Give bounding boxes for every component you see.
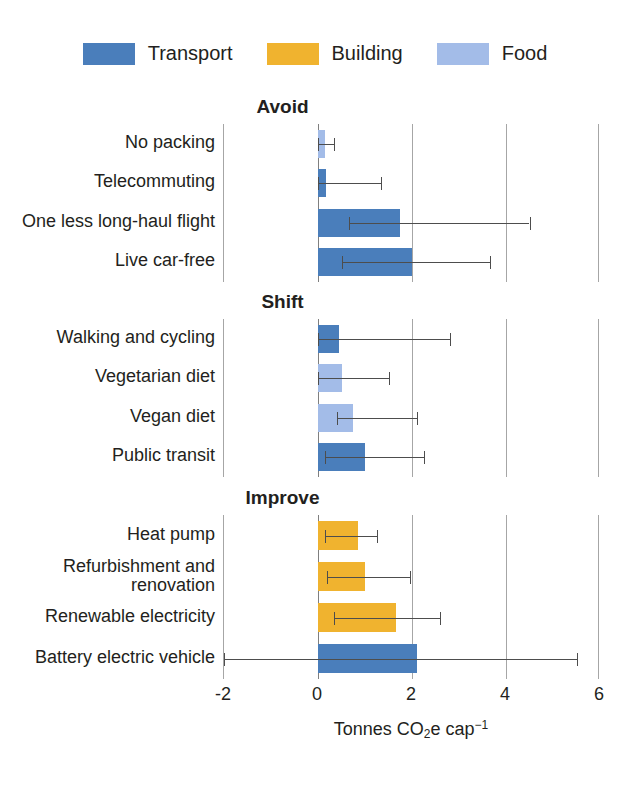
chart-row: Renewable electricity	[224, 597, 598, 638]
panel-title-avoid: Avoid	[0, 96, 565, 118]
chart-legend: Transport Building Food	[0, 42, 630, 65]
error-cap-low	[349, 217, 350, 230]
category-label: No packing	[125, 133, 215, 152]
error-bar	[318, 339, 450, 340]
chart-row: Vegan diet	[224, 398, 598, 438]
error-bar	[334, 618, 440, 619]
error-cap-high	[410, 571, 411, 584]
category-label: Walking and cycling	[57, 328, 215, 347]
error-cap-high	[389, 372, 390, 385]
error-cap-low	[224, 653, 225, 666]
error-cap-high	[577, 653, 578, 666]
error-cap-high	[334, 138, 335, 151]
error-bar	[337, 418, 417, 419]
error-bar	[349, 223, 530, 224]
chart-row: Telecommuting	[224, 164, 598, 204]
error-cap-low	[325, 530, 326, 543]
legend-label-building: Building	[332, 42, 403, 65]
legend-label-transport: Transport	[148, 42, 233, 65]
error-bar	[318, 183, 381, 184]
chart-row: Walking and cycling	[224, 319, 598, 359]
error-bar	[327, 577, 409, 578]
legend-swatch-building	[267, 43, 319, 65]
category-label: One less long-haul flight	[22, 212, 215, 231]
x-tick-label: 2	[406, 684, 416, 705]
plot-area-improve: Heat pumpRefurbishment andrenovationRene…	[223, 515, 599, 679]
error-bar	[224, 659, 577, 660]
category-label: Refurbishment andrenovation	[15, 557, 215, 596]
legend-label-food: Food	[502, 42, 548, 65]
error-cap-high	[530, 217, 531, 230]
error-bar	[318, 378, 389, 379]
category-label: Telecommuting	[94, 172, 215, 191]
category-label: Vegetarian diet	[95, 367, 215, 386]
x-tick-label: 6	[594, 684, 604, 705]
category-label: Vegan diet	[130, 407, 215, 426]
chart-row: No packing	[224, 124, 598, 164]
chart-row: One less long-haul flight	[224, 203, 598, 243]
chart-row: Heat pump	[224, 515, 598, 556]
chart-row: Live car-free	[224, 243, 598, 283]
error-cap-low	[318, 333, 319, 346]
error-cap-low	[327, 571, 328, 584]
error-cap-high	[450, 333, 451, 346]
x-axis: -20246	[223, 678, 599, 679]
error-bar	[342, 262, 490, 263]
legend-swatch-transport	[83, 43, 135, 65]
x-axis-title-main: Tonnes CO	[334, 719, 424, 739]
error-cap-high	[490, 256, 491, 269]
error-cap-high	[377, 530, 378, 543]
category-label: Live car-free	[115, 251, 215, 270]
chart-row: Vegetarian diet	[224, 359, 598, 399]
legend-item-transport: Transport	[83, 42, 233, 65]
plot-area-shift: Walking and cyclingVegetarian dietVegan …	[223, 319, 599, 477]
x-axis-title-sup: −1	[475, 718, 489, 732]
x-axis-title-sub: 2	[424, 727, 431, 741]
chart-figure: Transport Building Food Avoid No packing…	[0, 0, 630, 792]
category-label: Renewable electricity	[45, 607, 215, 626]
error-cap-high	[417, 412, 418, 425]
error-bar	[325, 457, 424, 458]
error-cap-low	[318, 372, 319, 385]
x-axis-title: Tonnes CO2e cap−1	[223, 718, 599, 741]
category-label: Battery electric vehicle	[35, 648, 215, 667]
error-bar	[325, 536, 377, 537]
error-cap-low	[318, 177, 319, 190]
category-label: Public transit	[112, 446, 215, 465]
chart-row: Public transit	[224, 438, 598, 478]
error-cap-low	[318, 138, 319, 151]
chart-row: Refurbishment andrenovation	[224, 556, 598, 597]
chart-row: Battery electric vehicle	[224, 638, 598, 679]
x-tick-label: 0	[312, 684, 322, 705]
error-cap-low	[342, 256, 343, 269]
error-cap-high	[440, 612, 441, 625]
panel-title-shift: Shift	[0, 291, 565, 313]
category-label: Heat pump	[127, 525, 215, 544]
error-bar	[318, 144, 334, 145]
panel-title-improve: Improve	[0, 487, 565, 509]
error-cap-low	[325, 451, 326, 464]
x-tick-label: -2	[215, 684, 231, 705]
legend-item-building: Building	[267, 42, 403, 65]
plot-area-avoid: No packingTelecommutingOne less long-hau…	[223, 124, 599, 282]
x-axis-title-mid: e cap	[431, 719, 475, 739]
legend-swatch-food	[437, 43, 489, 65]
error-cap-high	[424, 451, 425, 464]
error-cap-low	[334, 612, 335, 625]
error-cap-high	[381, 177, 382, 190]
legend-item-food: Food	[437, 42, 548, 65]
error-cap-low	[337, 412, 338, 425]
x-tick-label: 4	[500, 684, 510, 705]
